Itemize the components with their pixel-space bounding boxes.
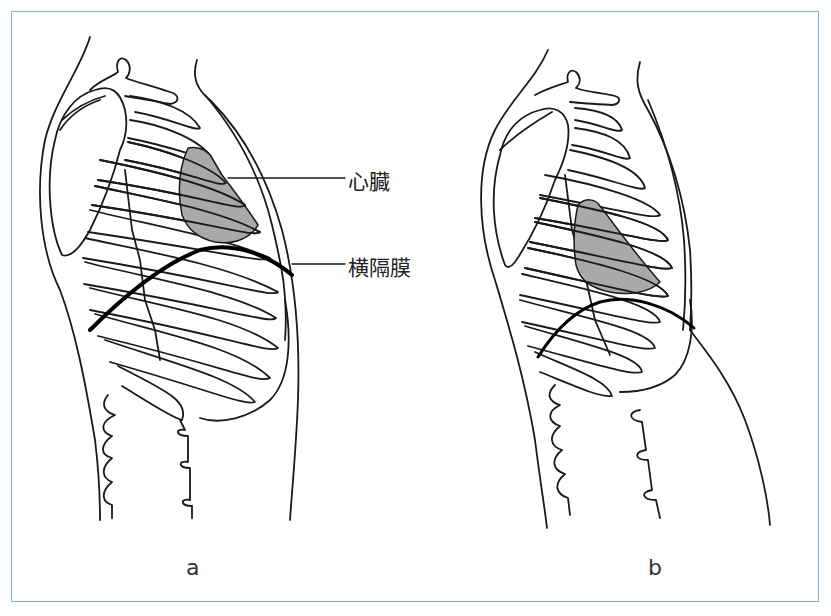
panel-a-caption: a (186, 555, 199, 580)
heart-label: 心臓 (348, 165, 390, 195)
heart-region-b (574, 200, 660, 294)
thorax-figure (0, 0, 831, 616)
diaphragm-curve-b (538, 299, 694, 357)
panel-b-caption: b (648, 555, 662, 580)
diaphragm-label: 横隔膜 (348, 251, 411, 281)
panel-a-drawing (40, 37, 298, 520)
